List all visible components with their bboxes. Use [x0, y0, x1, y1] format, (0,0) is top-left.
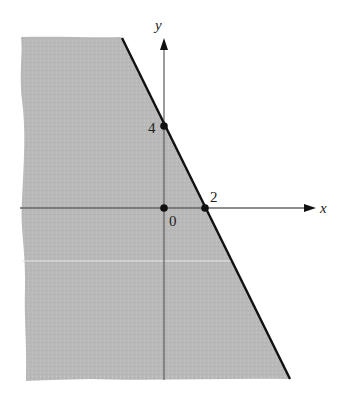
shaded-region — [21, 37, 290, 381]
x-axis-arrow-icon — [304, 204, 316, 212]
label-y-intercept: 4 — [148, 120, 156, 136]
point-origin — [160, 204, 168, 212]
point-x-intercept — [201, 204, 209, 212]
label-origin: 0 — [169, 213, 177, 229]
label-x-intercept: 2 — [210, 189, 218, 205]
x-axis-label: x — [319, 200, 327, 216]
y-axis-arrow-icon — [160, 38, 168, 50]
inequality-graph: x y 4 0 2 — [0, 0, 343, 407]
point-y-intercept — [160, 122, 168, 130]
y-axis-label: y — [153, 17, 162, 33]
